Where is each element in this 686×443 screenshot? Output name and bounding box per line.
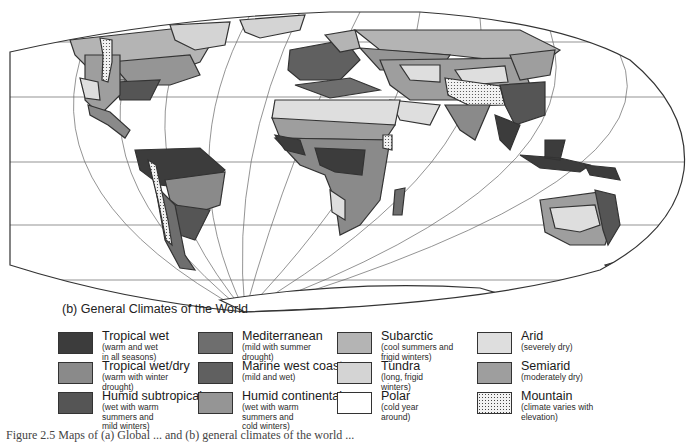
swatch-tropical-wet (58, 332, 93, 354)
new-guinea (585, 165, 620, 180)
swatch-humid-subtropical (58, 392, 93, 414)
india (445, 105, 490, 140)
swatch-humid-continental (198, 392, 233, 414)
swatch-polar (337, 392, 372, 414)
central-america (88, 105, 130, 138)
greenland (240, 15, 305, 38)
australia-arid (550, 205, 600, 232)
continents (70, 15, 645, 312)
new-zealand (605, 255, 645, 270)
east-africa-mountain (383, 135, 392, 150)
legend-desc: (mild and wet) (242, 373, 343, 383)
swatch-mediterranean (198, 332, 233, 354)
swatch-subarctic (337, 332, 372, 354)
east-asia-subtropical (500, 82, 545, 125)
legend-desc: elevation) (521, 413, 593, 423)
swatch-mountain (477, 392, 512, 414)
figure-caption-cutoff: Figure 2.5 Maps of (a) Global ... and (b… (6, 428, 354, 443)
swatch-arid (477, 332, 512, 354)
antarctica (220, 286, 520, 312)
swatch-tundra (337, 362, 372, 384)
swatch-marine-west-coast (198, 362, 233, 384)
map-caption: (b) General Climates of the World (62, 302, 248, 316)
indonesia (520, 140, 590, 172)
legend-desc: around) (381, 413, 418, 423)
mediterranean (295, 78, 380, 98)
legend-desc: (severely dry) (521, 343, 572, 353)
madagascar (393, 188, 405, 215)
swatch-semiarid (477, 362, 512, 384)
legend-desc: (moderately dry) (521, 373, 583, 383)
world-climate-map (0, 0, 686, 315)
swatch-tropical-wet-dry (58, 362, 93, 384)
